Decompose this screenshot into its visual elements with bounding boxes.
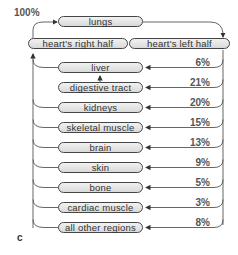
lungs-node: lungs [58,16,143,27]
region-percent: 21% [170,77,210,88]
heart-left-node: heart's left half [129,38,230,49]
region-node: skin [58,162,143,173]
region-percent: 5% [170,177,210,188]
region-percent: 9% [170,157,210,168]
heart-right-node: heart's right half [28,38,128,49]
total-percent: 100% [14,7,40,18]
region-node: all other regions [58,222,143,233]
region-percent: 20% [170,97,210,108]
region-percent: 15% [170,117,210,128]
region-percent: 3% [170,197,210,208]
region-node: bone [58,182,143,193]
region-node: liver [58,62,143,73]
region-percent: 13% [170,137,210,148]
region-node: skeletal muscle [58,122,143,133]
region-node: digestive tract [58,82,143,93]
region-node: kidneys [58,102,143,113]
region-node: cardiac muscle [58,202,143,213]
region-percent: 8% [170,217,210,228]
panel-label: c [17,232,23,243]
region-node: brain [58,142,143,153]
region-percent: 6% [170,57,210,68]
